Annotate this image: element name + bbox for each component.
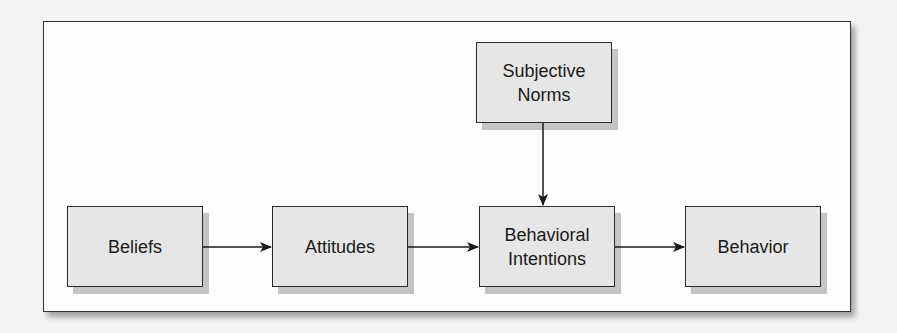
edges-layer	[0, 0, 897, 333]
